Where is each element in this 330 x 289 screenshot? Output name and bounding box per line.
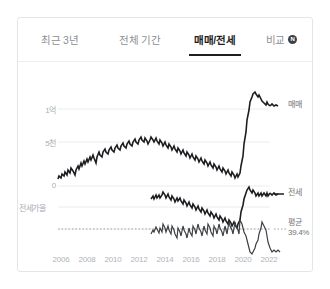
series-label-average: 평균: [288, 218, 301, 228]
series-line-ratio-tail: [270, 248, 280, 252]
series-label-average-value: 39.4%: [288, 228, 309, 238]
x-tick-2022: 2022: [261, 255, 278, 264]
chart-plot-area: 1억 5천 0 전세가율 매매 전세 평균 39.4% 2006 2008 20…: [18, 62, 312, 272]
tab-sale-jeonse-label: 매매/전세: [194, 32, 235, 47]
tab-compare[interactable]: 비교 N: [250, 18, 312, 62]
tab-recent-3-years[interactable]: 최근 3년: [18, 18, 101, 62]
series-label-jeonse: 전세: [288, 188, 301, 198]
series-line-ratio: [151, 220, 270, 254]
series-line-sale: [58, 92, 270, 179]
x-tick-2008: 2008: [79, 255, 96, 264]
x-axis-ticks: 2006 2008 2010 2012 2014 2016 2018 2020 …: [18, 255, 312, 264]
x-tick-2012: 2012: [131, 255, 148, 264]
chart-gridlines: [58, 109, 270, 229]
x-tick-2006: 2006: [53, 255, 70, 264]
y-tick-label-zero: 0: [26, 181, 56, 190]
tab-compare-label: 비교: [266, 32, 285, 47]
chart-canvas: [18, 62, 312, 272]
naver-badge-icon: N: [288, 35, 297, 44]
tab-sale-jeonse[interactable]: 매매/전세: [179, 18, 251, 62]
tab-full-period[interactable]: 전체 기간: [101, 18, 178, 62]
tab-recent-3-years-label: 최근 3년: [41, 32, 78, 47]
x-tick-2018: 2018: [209, 255, 226, 264]
tab-full-period-label: 전체 기간: [119, 32, 160, 47]
y-tick-label-1eok: 1억: [26, 104, 56, 115]
x-tick-2010: 2010: [105, 255, 122, 264]
chart-tab-bar: 최근 3년 전체 기간 매매/전세 비교 N: [18, 18, 312, 62]
x-tick-2014: 2014: [157, 255, 174, 264]
price-chart-card: 최근 3년 전체 기간 매매/전세 비교 N: [17, 17, 313, 272]
series-line-sale-tail: [270, 104, 278, 106]
x-tick-2020: 2020: [235, 255, 252, 264]
active-tab-underline: [189, 54, 241, 56]
screenshot-root: 최근 3년 전체 기간 매매/전세 비교 N: [0, 0, 330, 289]
y-axis-label-jeonse-ratio: 전세가율: [19, 202, 46, 213]
y-tick-label-5cheon: 5천: [26, 137, 56, 148]
series-label-sale: 매매: [288, 100, 301, 110]
x-tick-2016: 2016: [183, 255, 200, 264]
